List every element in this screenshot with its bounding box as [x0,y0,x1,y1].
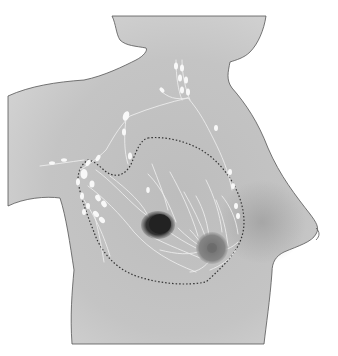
torso-silhouette [8,16,318,344]
breast-shadow [218,180,306,264]
tumor [141,211,175,239]
illustration-canvas [0,0,338,356]
nipple [207,243,217,253]
anatomy-illustration [0,0,338,356]
